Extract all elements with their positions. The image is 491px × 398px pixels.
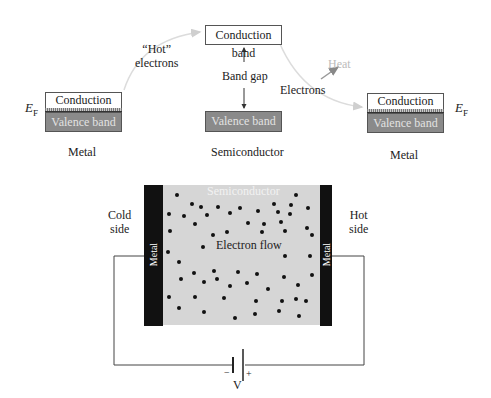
hot-electrons-label: “Hot” electrons	[135, 42, 178, 70]
right-conduction-band: Conduction band	[367, 93, 444, 110]
battery-voltage-label: V	[233, 378, 242, 393]
right-valence-band: Valence band	[367, 113, 444, 133]
right-metal-label: Metal	[321, 240, 332, 270]
left-conduction-band: Conduction band	[45, 92, 122, 109]
heat-label: Heat	[328, 57, 351, 72]
right-metal-caption: Metal	[390, 148, 418, 163]
semiconductor-conduction-band: Conduction band	[205, 25, 282, 45]
right-metal-band-diagram: Conduction band Valence band	[367, 93, 444, 133]
left-fermi-label: EF	[25, 100, 38, 118]
electron-flow-label: Electron flow	[216, 238, 282, 253]
cold-side-label: Cold side	[108, 208, 131, 236]
semiconductor-valence-band: Valence band	[205, 111, 282, 132]
right-fermi-label: EF	[455, 100, 468, 118]
hot-side-label: Hot side	[349, 208, 368, 236]
semiconductor-block-label: Semiconductor	[207, 184, 280, 199]
left-metal-label: Metal	[148, 240, 159, 270]
semiconductor-caption: Semiconductor	[211, 145, 284, 160]
left-metal-band-diagram: Conduction band Valence band	[45, 92, 122, 132]
left-valence-band: Valence band	[45, 112, 122, 132]
electrons-label: Electrons	[280, 83, 325, 98]
left-metal-caption: Metal	[68, 145, 96, 160]
battery-minus-label: −	[224, 367, 230, 378]
band-gap-label: Band gap	[222, 69, 268, 84]
battery-plus-label: +	[246, 368, 252, 379]
